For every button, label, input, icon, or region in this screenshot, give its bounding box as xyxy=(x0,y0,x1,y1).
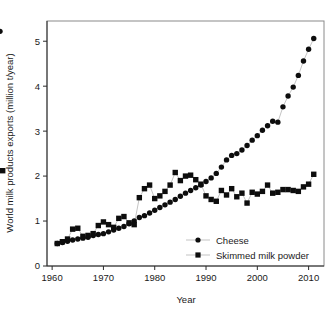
legend-entry-cheese: Cheese xyxy=(186,235,249,246)
data-point-skimmed-milk-powder xyxy=(162,189,167,194)
data-point-cheese xyxy=(249,137,254,142)
x-tick-label: 1990 xyxy=(195,272,216,283)
data-point-cheese xyxy=(75,236,80,241)
data-point-skimmed-milk-powder xyxy=(255,191,260,196)
data-point-skimmed-milk-powder xyxy=(55,241,60,246)
data-point-cheese xyxy=(311,36,316,41)
data-point-skimmed-milk-powder xyxy=(132,222,137,227)
data-point-cheese xyxy=(234,151,239,156)
data-point-cheese xyxy=(183,190,188,195)
data-point-cheese xyxy=(147,210,152,215)
data-point-cheese xyxy=(142,213,147,218)
y-tick-label: 4 xyxy=(35,81,40,92)
data-point-skimmed-milk-powder xyxy=(167,182,172,187)
y-axis-title: World milk products exports (million t/y… xyxy=(4,53,15,232)
data-point-skimmed-milk-powder xyxy=(203,193,208,198)
data-point-skimmed-milk-powder xyxy=(198,181,203,186)
data-point-skimmed-milk-powder xyxy=(90,231,95,236)
data-point-skimmed-milk-powder xyxy=(70,226,75,231)
data-point-cheese xyxy=(157,205,162,210)
data-point-skimmed-milk-powder xyxy=(101,219,106,224)
series-lines-layer xyxy=(57,39,313,244)
data-point-cheese xyxy=(188,188,193,193)
data-point-cheese xyxy=(280,104,285,109)
y-tick-label: 0 xyxy=(35,260,40,271)
data-point-skimmed-milk-powder xyxy=(249,190,254,195)
data-point-skimmed-milk-powder xyxy=(244,200,249,205)
data-point-skimmed-milk-powder xyxy=(65,236,70,241)
data-point-cheese xyxy=(229,153,234,158)
milk-exports-line-chart: 012345 196019701980199020002010 World mi… xyxy=(0,0,336,315)
x-axis-ticks: 196019701980199020002010 xyxy=(42,266,320,283)
data-point-cheese xyxy=(0,29,3,34)
data-point-skimmed-milk-powder xyxy=(291,188,296,193)
data-point-skimmed-milk-powder xyxy=(208,197,213,202)
data-point-skimmed-milk-powder xyxy=(80,234,85,239)
data-point-skimmed-milk-powder xyxy=(152,196,157,201)
data-point-skimmed-milk-powder xyxy=(147,182,152,187)
data-point-cheese xyxy=(116,226,121,231)
data-point-skimmed-milk-powder xyxy=(280,187,285,192)
x-tick-label: 1970 xyxy=(93,272,114,283)
legend-label-skimmed-milk-powder: Skimmed milk powder xyxy=(216,250,309,261)
data-point-skimmed-milk-powder xyxy=(173,170,178,175)
data-point-cheese xyxy=(162,202,167,207)
data-point-cheese xyxy=(106,229,111,234)
data-point-skimmed-milk-powder xyxy=(121,214,126,219)
data-point-cheese xyxy=(270,119,275,124)
data-point-cheese xyxy=(296,73,301,78)
data-point-skimmed-milk-powder xyxy=(265,182,270,187)
data-point-skimmed-milk-powder xyxy=(306,181,311,186)
data-point-skimmed-milk-powder xyxy=(126,220,131,225)
data-point-cheese xyxy=(219,164,224,169)
data-point-skimmed-milk-powder xyxy=(239,190,244,195)
data-point-skimmed-milk-powder xyxy=(116,216,121,221)
data-point-skimmed-milk-powder xyxy=(183,173,188,178)
legend-label-cheese: Cheese xyxy=(216,235,249,246)
data-point-skimmed-milk-powder xyxy=(260,189,265,194)
data-point-cheese xyxy=(70,237,75,242)
data-point-skimmed-milk-powder xyxy=(157,193,162,198)
y-tick-label: 2 xyxy=(35,170,40,181)
data-point-cheese xyxy=(239,147,244,152)
square-marker-icon xyxy=(195,252,200,257)
plot-frame xyxy=(47,21,324,266)
y-tick-label: 1 xyxy=(35,215,40,226)
data-point-skimmed-milk-powder xyxy=(214,199,219,204)
data-point-cheese xyxy=(244,143,249,148)
data-point-cheese xyxy=(178,194,183,199)
data-point-skimmed-milk-powder xyxy=(178,178,183,183)
data-point-cheese xyxy=(301,58,306,63)
data-point-cheese xyxy=(121,224,126,229)
data-point-cheese xyxy=(214,171,219,176)
data-point-cheese xyxy=(193,185,198,190)
data-point-skimmed-milk-powder xyxy=(111,225,116,230)
legend-entry-skimmed-milk-powder: Skimmed milk powder xyxy=(186,250,309,261)
y-axis-ticks: 012345 xyxy=(35,36,47,272)
data-point-skimmed-milk-powder xyxy=(60,239,65,244)
data-point-skimmed-milk-powder xyxy=(301,184,306,189)
data-point-cheese xyxy=(291,84,296,89)
chart-figure: 012345 196019701980199020002010 World mi… xyxy=(0,0,336,315)
data-point-cheese xyxy=(137,215,142,220)
data-point-skimmed-milk-powder xyxy=(142,186,147,191)
x-tick-label: 2000 xyxy=(247,272,268,283)
data-point-skimmed-milk-powder xyxy=(285,187,290,192)
data-point-skimmed-milk-powder xyxy=(275,190,280,195)
series-line-cheese xyxy=(57,39,313,244)
data-point-skimmed-milk-powder xyxy=(137,195,142,200)
data-point-cheese xyxy=(203,179,208,184)
data-point-skimmed-milk-powder xyxy=(188,172,193,177)
x-axis-title: Year xyxy=(176,294,195,305)
data-point-skimmed-milk-powder xyxy=(75,226,80,231)
data-point-cheese xyxy=(255,133,260,138)
data-point-cheese xyxy=(275,119,280,124)
data-point-cheese xyxy=(265,123,270,128)
y-tick-label: 5 xyxy=(35,36,40,47)
data-point-cheese xyxy=(224,157,229,162)
data-point-skimmed-milk-powder xyxy=(193,177,198,182)
data-point-cheese xyxy=(173,197,178,202)
data-point-skimmed-milk-powder xyxy=(85,233,90,238)
x-tick-label: 1960 xyxy=(42,272,63,283)
data-point-skimmed-milk-powder xyxy=(270,190,275,195)
